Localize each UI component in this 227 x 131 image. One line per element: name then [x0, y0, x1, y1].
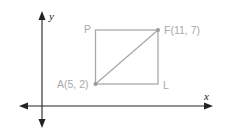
- y-axis-up-arrow-icon: [39, 11, 46, 20]
- y-axis-down-arrow-icon: [39, 119, 46, 128]
- y-axis-label: y: [48, 10, 54, 22]
- point-a-label: A(5, 2): [57, 78, 89, 90]
- point-f-label: F(11, 7): [164, 24, 200, 36]
- y-axis: y: [39, 10, 55, 128]
- x-axis: x: [19, 90, 213, 110]
- x-axis-left-arrow-icon: [19, 103, 28, 110]
- x-axis-right-arrow-icon: [204, 103, 213, 110]
- x-axis-label: x: [203, 90, 209, 102]
- point-l-label: L: [163, 79, 169, 91]
- rectangle-pfla: [94, 28, 161, 86]
- point-f-dot: [156, 28, 160, 32]
- coordinate-diagram: y x P F(11, 7) A(5, 2) L: [0, 0, 227, 131]
- diagonal-af: [96, 30, 159, 84]
- point-p-label: P: [84, 23, 91, 35]
- point-a-dot: [94, 82, 98, 86]
